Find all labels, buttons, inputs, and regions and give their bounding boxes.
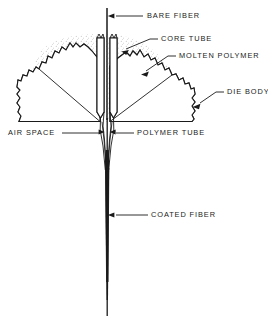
label-bare-fiber: BARE FIBER xyxy=(147,11,200,20)
die-body-right xyxy=(110,50,195,122)
die-cross-section-diagram: BARE FIBER CORE TUBE MOLTEN POLYMER DIE … xyxy=(0,0,268,322)
leader-coated-fiber xyxy=(108,212,148,217)
label-core-tube: CORE TUBE xyxy=(161,34,212,43)
label-die-body: DIE BODY xyxy=(227,87,268,96)
die-body-left xyxy=(17,43,100,122)
label-air-space: AIR SPACE xyxy=(8,128,55,137)
label-molten-polymer: MOLTEN POLYMER xyxy=(179,51,260,60)
leader-bare-fiber xyxy=(108,13,143,18)
leader-die-body xyxy=(193,92,225,109)
label-polymer-tube: POLYMER TUBE xyxy=(137,128,205,137)
figure-canvas: BARE FIBER CORE TUBE MOLTEN POLYMER DIE … xyxy=(0,0,268,322)
label-coated-fiber: COATED FIBER xyxy=(151,210,216,219)
